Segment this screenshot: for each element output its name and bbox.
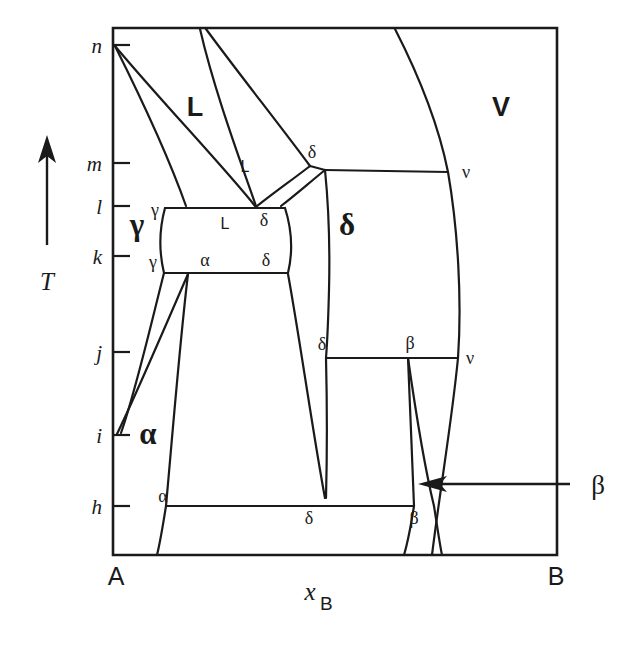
phase-diagram-svg: n m l k j i h T A B x B <box>0 0 631 650</box>
region-label-delta-box-upper: δ <box>260 210 268 230</box>
temperature-arrow <box>38 135 56 245</box>
tick-label-i: i <box>96 424 102 448</box>
region-label-gamma-upper: γ <box>150 200 159 220</box>
boundary-alpha-right-lower <box>157 506 166 555</box>
boundary-delta-box-right <box>285 208 291 273</box>
region-label-alpha-box: α <box>200 250 210 270</box>
y-axis-tick-labels: n m l k j i h <box>87 34 103 519</box>
boundary-n-to-L-triple <box>115 46 255 206</box>
beta-callout-label: β <box>591 470 605 500</box>
boundary-alpha-right <box>166 274 188 506</box>
y-axis-title: T <box>40 268 56 295</box>
region-label-alpha-main: α <box>139 416 156 451</box>
boundary-vapour-mid <box>448 172 460 358</box>
boundary-L-lower-right <box>256 166 310 207</box>
tick-label-h: h <box>92 495 103 519</box>
region-label-nu-upper: ν <box>462 162 470 182</box>
boundary-delta-right-flank-upper <box>325 170 329 290</box>
x-axis-title-main: x <box>303 578 315 605</box>
boundary-gamma-box-left <box>160 208 165 273</box>
region-label-liquid-main: L <box>187 92 204 122</box>
tick-label-n: n <box>92 34 103 58</box>
boundary-alpha-solvus-left <box>117 274 188 434</box>
region-label-delta-top: δ <box>308 142 316 162</box>
x-axis-title: x B <box>303 578 332 614</box>
boundary-top-to-L-triple <box>200 29 256 206</box>
x-axis-left-endpoint: A <box>108 562 125 590</box>
boundary-delta-spindle-right <box>326 358 327 498</box>
region-label-delta-main: δ <box>339 207 355 242</box>
region-label-delta-box-lower: δ <box>262 250 270 270</box>
region-label-liquid-upper: L <box>241 158 250 175</box>
phase-diagram-figure: n m l k j i h T A B x B <box>0 0 631 650</box>
region-label-liquid-box: L <box>221 215 230 232</box>
region-label-gamma-lower: γ <box>148 252 157 272</box>
tick-label-m: m <box>87 152 102 176</box>
region-label-gamma-main: γ <box>129 207 145 242</box>
beta-callout <box>418 476 570 492</box>
tick-label-j: j <box>93 341 102 365</box>
boundary-delta-spindle-left <box>288 274 325 498</box>
boundary-delta-right-flank-lower <box>326 290 329 358</box>
boundary-n-to-gamma-left <box>115 46 186 206</box>
x-axis-title-subscript: B <box>320 593 333 614</box>
y-axis-ticks <box>113 45 130 506</box>
region-label-delta-bottom: δ <box>305 508 313 528</box>
region-label-nu-lower: ν <box>466 348 474 368</box>
x-axis-right-endpoint: B <box>548 562 565 590</box>
region-label-beta-bottom: β <box>409 508 418 528</box>
region-label-alpha-bottom: α <box>158 486 168 506</box>
tie-line-m-level <box>325 170 448 172</box>
liquidus-curves-from-n <box>115 46 255 206</box>
region-label-beta-mid: β <box>405 333 414 353</box>
boundary-delta-apex-to-plateau <box>281 170 325 206</box>
region-label-delta-mid: δ <box>318 334 326 354</box>
tick-label-l: l <box>96 195 102 219</box>
region-label-vapour-main: V <box>492 92 510 122</box>
boundary-L-to-delta-apex <box>310 166 325 170</box>
boundary-L-right-liquidus <box>206 29 310 166</box>
boundary-vapour-upper <box>395 29 448 172</box>
tick-label-k: k <box>93 245 103 269</box>
